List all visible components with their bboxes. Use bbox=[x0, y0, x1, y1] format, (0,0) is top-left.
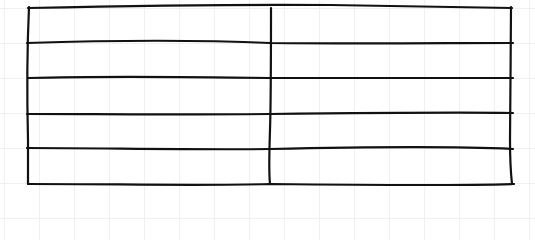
table-cell bbox=[30, 116, 268, 147]
table-top-border bbox=[28, 5, 512, 8]
table-cell bbox=[273, 116, 509, 147]
table-cell bbox=[273, 80, 509, 112]
table-left-border bbox=[27, 7, 29, 184]
table-cell bbox=[30, 45, 268, 76]
table-right-border bbox=[510, 7, 512, 184]
table-cell bbox=[30, 151, 268, 182]
table-cell bbox=[30, 10, 268, 41]
table-cell bbox=[273, 45, 509, 76]
table-cell bbox=[273, 10, 509, 41]
column-divider bbox=[269, 8, 271, 184]
table-cell bbox=[30, 80, 268, 112]
table-cell bbox=[273, 151, 509, 182]
